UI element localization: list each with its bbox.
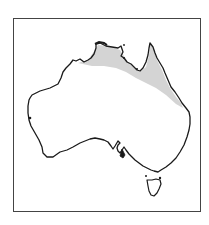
island-dot — [136, 68, 138, 70]
tasmania-outline — [147, 179, 161, 196]
australia-map — [0, 0, 209, 225]
island-dot — [145, 175, 147, 177]
island-dot — [29, 117, 32, 120]
island-dot — [123, 44, 125, 46]
gulf-detail — [120, 149, 125, 158]
island-dot — [123, 57, 125, 59]
island-dot — [159, 177, 161, 179]
